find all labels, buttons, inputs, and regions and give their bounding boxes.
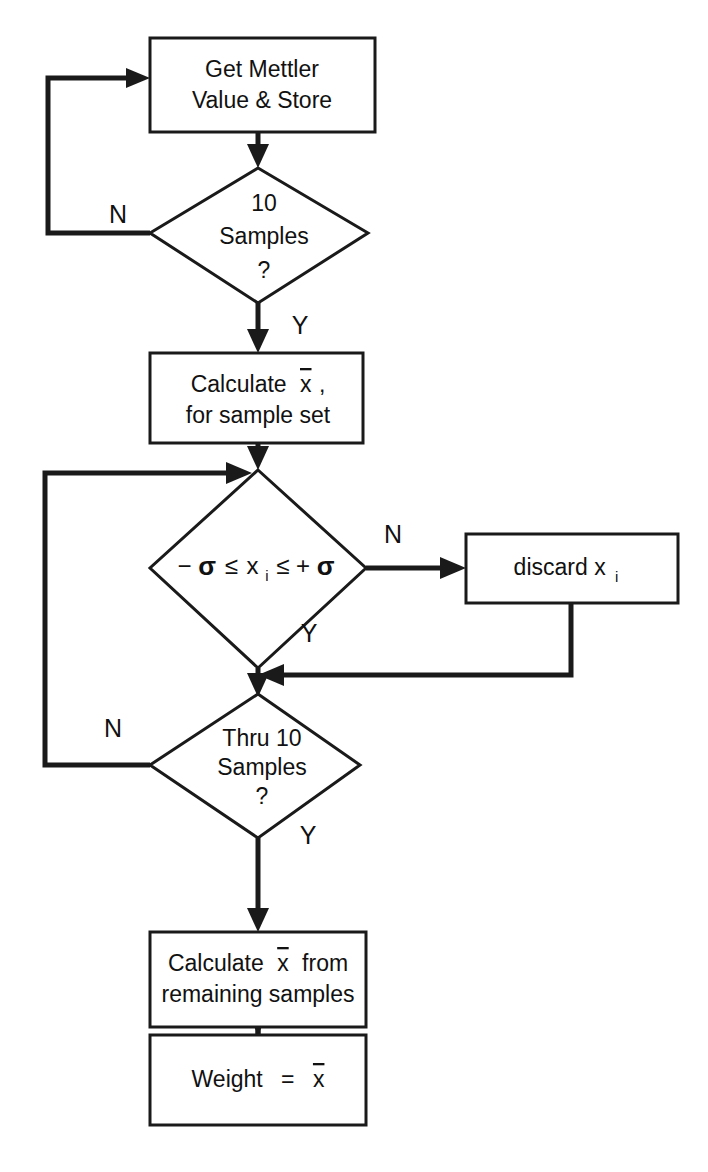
calc-xbar-remaining-line-1: Calculate x from: [168, 950, 348, 976]
sigma-plus: +: [296, 552, 310, 579]
flowchart-canvas: Get Mettler Value & Store 10 Samples ? C…: [0, 0, 708, 1172]
branch-label-thru-ten-no: N: [104, 714, 122, 742]
flowchart-svg: Get Mettler Value & Store 10 Samples ? C…: [0, 0, 708, 1172]
node-calc-xbar-set[interactable]: Calculate x , for sample set: [150, 353, 363, 443]
branch-label-ten-samples-no: N: [109, 200, 127, 228]
branch-label-thru-ten-yes: Y: [300, 821, 317, 849]
weight-word: Weight: [192, 1066, 264, 1092]
discard-subscript: i: [615, 568, 618, 585]
branch-label-sigma-no: N: [384, 520, 402, 548]
discard-word: discard x: [514, 554, 607, 580]
branch-label-ten-samples-yes: Y: [292, 311, 309, 339]
calc-xbar-remaining-line-2: remaining samples: [161, 981, 354, 1007]
get-mettler-line-2: Value & Store: [192, 87, 332, 113]
connector-get-mettler-to-ten-samples: [247, 132, 269, 168]
node-get-mettler[interactable]: Get Mettler Value & Store: [150, 38, 375, 132]
node-discard-xi[interactable]: discard x i: [466, 534, 678, 603]
arrowhead-into-ten-samples: [247, 144, 269, 168]
thru-ten-line-3: ?: [256, 783, 269, 809]
arrowhead-into-sigma-diamond: [247, 446, 269, 470]
node-ten-samples-decision[interactable]: 10 Samples ?: [150, 168, 368, 303]
calc-xbar-set-box[interactable]: [150, 353, 363, 443]
sigma-glyph-right: σ: [317, 551, 335, 581]
get-mettler-box[interactable]: [150, 38, 375, 132]
calc1-comma: ,: [319, 371, 325, 397]
node-calc-xbar-remaining[interactable]: Calculate x from remaining samples: [150, 932, 366, 1027]
calc1-xbar: x: [300, 371, 312, 397]
weight-equals: =: [281, 1066, 294, 1092]
get-mettler-line-1: Get Mettler: [205, 56, 319, 82]
weight-xbar: x: [313, 1066, 325, 1092]
connector-thru-ten-yes-to-calc2: [247, 838, 269, 932]
ten-samples-line-3: ?: [258, 257, 271, 283]
calc-xbar-set-line-2: for sample set: [186, 402, 331, 428]
thru-ten-line-2: Samples: [217, 754, 306, 780]
calc2-xbar: x: [277, 950, 289, 976]
node-sigma-range-decision[interactable]: − σ ≤ x i ≤ + σ: [150, 470, 366, 668]
node-thru-ten-samples-decision[interactable]: Thru 10 Samples ?: [150, 694, 360, 838]
sigma-subscript: i: [265, 567, 268, 584]
arrowhead-into-get-mettler: [126, 68, 150, 88]
branch-label-sigma-yes: Y: [301, 619, 318, 647]
sigma-glyph-left: σ: [198, 551, 216, 581]
ten-samples-line-2: Samples: [219, 223, 308, 249]
calc2-word: Calculate: [168, 950, 264, 976]
connector-calc-to-sigma: [247, 443, 269, 470]
thru-ten-line-1: Thru 10: [222, 725, 301, 751]
sigma-minus: −: [177, 552, 191, 579]
calc2-from: from: [302, 950, 348, 976]
calc-xbar-remaining-box[interactable]: [150, 932, 366, 1027]
connector-ten-samples-yes-to-calc: [247, 303, 269, 353]
arrowhead-into-calc-xbar-remaining: [247, 908, 269, 932]
calc1-word: Calculate: [191, 371, 287, 397]
sigma-le-left: ≤: [225, 552, 238, 579]
sigma-le-right: ≤: [276, 552, 289, 579]
arrowhead-into-calc-xbar-set: [247, 329, 269, 353]
node-weight-result[interactable]: Weight = x: [150, 1035, 366, 1125]
ten-samples-line-1: 10: [251, 190, 277, 216]
sigma-variable: x: [246, 552, 258, 579]
connector-ten-samples-no-loop: [48, 68, 150, 233]
arrowhead-into-discard: [440, 557, 466, 579]
calc-xbar-set-line-1: Calculate x ,: [191, 371, 326, 397]
connector-sigma-no-to-discard: [366, 557, 466, 579]
